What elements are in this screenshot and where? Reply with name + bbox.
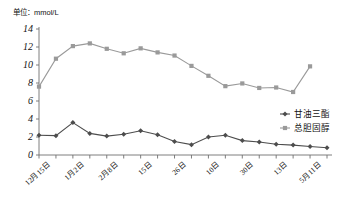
- data-point: [223, 133, 228, 138]
- legend-group: 甘油三酯总胆固醇: [280, 108, 330, 133]
- data-point: [155, 50, 159, 54]
- x-tick-label: 2月8日: [97, 160, 121, 182]
- legend-marker-1: [283, 112, 288, 117]
- data-point: [172, 53, 176, 57]
- legend-marker-2: [283, 126, 287, 130]
- data-point: [291, 143, 296, 148]
- y-tick-label: 2: [28, 131, 33, 142]
- x-tick-label: 13日: [272, 160, 290, 177]
- series-line-2: [39, 43, 310, 92]
- data-point: [274, 142, 279, 147]
- chart-container: 单位：mmol/L 02468101214 12月15日1月2日2月8日15日2…: [0, 0, 353, 218]
- data-point: [308, 64, 312, 68]
- y-tick-label: 12: [23, 41, 33, 52]
- data-point: [325, 145, 330, 150]
- data-point: [122, 51, 126, 55]
- x-tick-label: 12月15日: [23, 160, 52, 188]
- data-point: [37, 85, 41, 89]
- data-point: [121, 132, 126, 137]
- data-point: [274, 85, 278, 89]
- x-tick-label: 5月11日: [297, 160, 323, 185]
- data-point: [104, 134, 109, 139]
- data-point: [54, 57, 58, 61]
- legend-label-2: 总胆固醇: [294, 122, 330, 133]
- y-tick-label: 4: [28, 113, 33, 124]
- x-tick-label: 26日: [170, 160, 188, 177]
- data-point: [240, 81, 244, 85]
- data-point: [155, 132, 160, 137]
- data-point: [291, 90, 295, 94]
- y-axis-group: 02468101214: [23, 23, 39, 160]
- data-point: [257, 86, 261, 90]
- data-point: [88, 41, 92, 45]
- x-axis-group: 12月15日1月2日2月8日15日26日10日30日13日5月11日: [23, 155, 332, 187]
- data-point: [105, 47, 109, 51]
- y-tick-label: 10: [23, 59, 33, 70]
- data-point: [71, 44, 75, 48]
- x-tick-label: 15日: [136, 160, 154, 177]
- y-tick-label: 6: [28, 95, 33, 106]
- x-tick-label: 1月2日: [63, 160, 87, 182]
- data-point: [172, 139, 177, 144]
- data-point: [240, 138, 245, 143]
- data-point: [257, 139, 262, 144]
- series-group: [37, 41, 330, 150]
- x-tick-label: 30日: [238, 160, 256, 177]
- data-point: [308, 144, 313, 149]
- data-point: [139, 46, 143, 50]
- data-point: [206, 74, 210, 78]
- data-point: [138, 128, 143, 133]
- y-tick-label: 14: [23, 23, 33, 34]
- x-tick-label: 10日: [204, 160, 222, 177]
- data-point: [223, 84, 227, 88]
- data-point: [189, 64, 193, 68]
- line-chart-plot: 02468101214 12月15日1月2日2月8日15日26日10日30日13…: [0, 0, 353, 218]
- data-point: [206, 135, 211, 140]
- y-tick-label: 0: [28, 149, 33, 160]
- legend-label-1: 甘油三酯: [294, 108, 330, 119]
- y-tick-label: 8: [28, 77, 33, 88]
- data-point: [189, 142, 194, 147]
